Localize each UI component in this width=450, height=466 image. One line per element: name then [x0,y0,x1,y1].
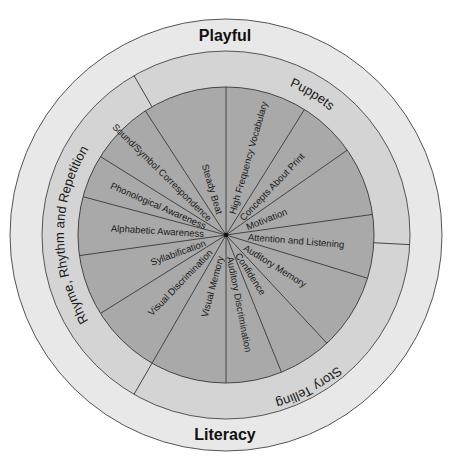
center-hub [224,233,228,237]
outer-label-playful: Playful [199,27,251,44]
outer-label-literacy: Literacy [194,426,255,443]
literacy-wheel-diagram: PuppetsStory TellingRhyme, Rhythm and Re… [0,0,450,466]
